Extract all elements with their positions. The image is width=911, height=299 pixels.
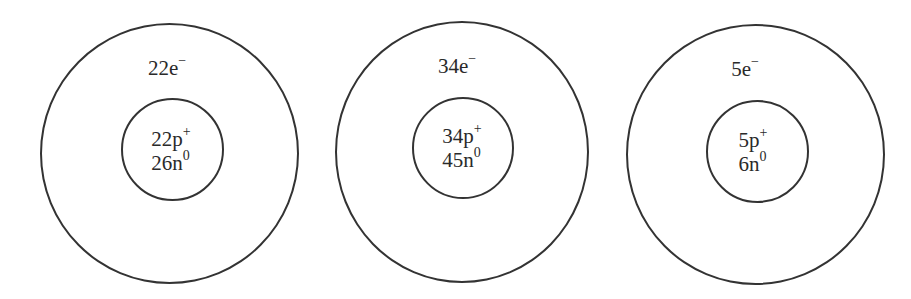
nucleus-composition: 34p+ 45n0 <box>442 124 481 172</box>
neutron-count: 26n0 <box>151 151 190 175</box>
neutron-count: 6n0 <box>739 152 768 176</box>
nucleus-composition: 22p+ 26n0 <box>151 127 190 175</box>
electron-count-label: 5e− <box>731 59 759 80</box>
electron-count-label: 34e− <box>438 56 476 77</box>
nucleus-composition: 5p+ 6n0 <box>739 128 768 176</box>
electron-count-label: 22e− <box>148 58 186 79</box>
neutron-count: 45n0 <box>442 148 481 172</box>
